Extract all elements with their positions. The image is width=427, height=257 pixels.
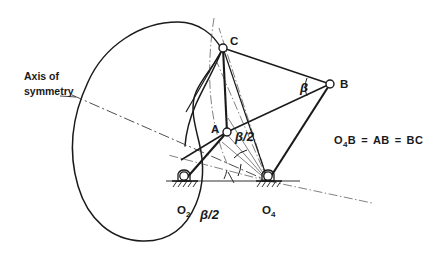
joint-b-pin (326, 80, 334, 88)
link-coupler-c-b (223, 48, 330, 84)
link-a-cam-left (181, 132, 227, 160)
link-coupler-a-c (223, 48, 227, 132)
angle-label-beta-half-base: β/2 (199, 207, 220, 222)
joint-label-b: B (340, 78, 348, 90)
angle-label-beta-b: β (299, 80, 308, 95)
link-c-cam-left (186, 48, 223, 112)
construction-ray-o4-right (268, 181, 372, 203)
angle-label-beta-half-a: β/2 (234, 129, 255, 144)
equation-label: O4B=AB=BC (334, 134, 423, 149)
diagram-svg: Axis of symmetry C B A O2 O4 β β/2 β/2 O… (0, 0, 427, 257)
angle-arc-o4-base (224, 170, 227, 179)
axis-label-line2: symmetry (24, 85, 74, 97)
joint-label-o4: O4 (262, 204, 276, 219)
joint-label-o2: O2 (177, 204, 191, 219)
axis-label-line1: Axis of (24, 70, 60, 82)
joint-a-pin (223, 128, 231, 136)
ground-pivot-o2 (172, 170, 198, 187)
joint-label-c: C (230, 35, 238, 47)
joint-label-a: A (211, 123, 219, 135)
ground-pivot-o4 (256, 170, 282, 187)
joint-c-pin (219, 44, 227, 52)
construction-ray-o4-upper (228, 118, 268, 181)
link-c-o4 (223, 48, 268, 181)
figure-canvas: Axis of symmetry C B A O2 O4 β β/2 β/2 O… (0, 0, 427, 257)
